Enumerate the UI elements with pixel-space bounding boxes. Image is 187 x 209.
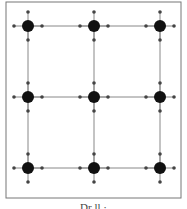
graph-node xyxy=(88,162,100,174)
port-dot xyxy=(78,24,82,28)
port-dot xyxy=(172,166,176,170)
port-dot xyxy=(26,38,30,42)
graph-node xyxy=(22,91,34,103)
port-dot xyxy=(172,24,176,28)
port-dot xyxy=(172,95,176,99)
port-dot xyxy=(92,109,96,113)
port-dot xyxy=(144,24,148,28)
port-dot xyxy=(106,95,110,99)
port-dot xyxy=(158,152,162,156)
port-dot xyxy=(158,180,162,184)
port-dot xyxy=(26,109,30,113)
port-dot xyxy=(158,38,162,42)
port-dot xyxy=(158,81,162,85)
port-dot xyxy=(158,109,162,113)
grid-network-diagram xyxy=(0,0,187,209)
port-dot xyxy=(78,95,82,99)
port-dot xyxy=(12,166,16,170)
graph-node xyxy=(88,91,100,103)
port-dot xyxy=(40,166,44,170)
port-dot xyxy=(144,95,148,99)
port-dot xyxy=(26,10,30,14)
port-dot xyxy=(92,38,96,42)
graph-node xyxy=(154,20,166,32)
port-dot xyxy=(158,10,162,14)
port-dot xyxy=(78,166,82,170)
graph-node xyxy=(154,162,166,174)
figure-caption-truncated: Dr ll · xyxy=(0,201,187,209)
port-dot xyxy=(26,152,30,156)
port-dot xyxy=(26,180,30,184)
port-dot xyxy=(92,152,96,156)
port-dot xyxy=(144,166,148,170)
port-dot xyxy=(40,95,44,99)
port-dot xyxy=(92,81,96,85)
graph-node xyxy=(154,91,166,103)
graph-node xyxy=(22,20,34,32)
port-dot xyxy=(40,24,44,28)
graph-node xyxy=(22,162,34,174)
port-dot xyxy=(106,166,110,170)
port-dot xyxy=(12,95,16,99)
port-dot xyxy=(92,10,96,14)
port-dot xyxy=(92,180,96,184)
port-dot xyxy=(12,24,16,28)
port-dot xyxy=(106,24,110,28)
graph-node xyxy=(88,20,100,32)
port-dot xyxy=(26,81,30,85)
